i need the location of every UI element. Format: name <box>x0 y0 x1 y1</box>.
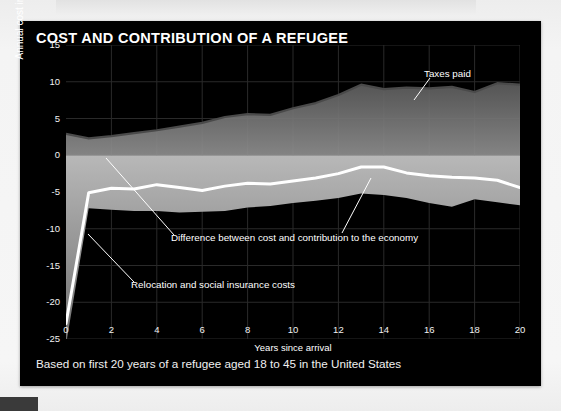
annotation-taxes-paid: Taxes paid <box>424 68 471 79</box>
x-tick-2: 2 <box>96 324 126 335</box>
page-bottom-tab <box>0 397 38 411</box>
figure-caption: Based on first 20 years of a refugee age… <box>36 357 401 370</box>
y-tick-neg20: -20 <box>26 296 60 307</box>
figure-card: COST AND CONTRIBUTION OF A REFUGEE Annua… <box>20 21 541 386</box>
x-axis-title: Years since arrival <box>66 342 520 353</box>
x-tick-12: 12 <box>323 324 353 335</box>
annotation-relocation: Relocation and social insurance costs <box>131 279 295 290</box>
x-tick-10: 10 <box>278 324 308 335</box>
x-tick-8: 8 <box>233 324 263 335</box>
annotation-difference: Difference between cost and contribution… <box>171 232 418 243</box>
y-tick-15: 15 <box>26 39 60 50</box>
x-tick-0: 0 <box>51 324 81 335</box>
y-tick-10: 10 <box>26 76 60 87</box>
y-tick-0: 0 <box>26 149 60 160</box>
x-tick-14: 14 <box>369 324 399 335</box>
y-tick-neg15: -15 <box>26 260 60 271</box>
x-tick-6: 6 <box>187 324 217 335</box>
page-title: COST AND CONTRIBUTION OF A REFUGEE <box>36 30 348 46</box>
chart-svg <box>66 45 520 339</box>
chart-plot-area <box>66 45 520 339</box>
y-axis-title: Annual cost in U.S. dollars (thousands) <box>14 0 25 83</box>
y-tick-5: 5 <box>26 113 60 124</box>
x-tick-4: 4 <box>142 324 172 335</box>
x-tick-16: 16 <box>414 324 444 335</box>
x-tick-18: 18 <box>460 324 490 335</box>
x-tick-20: 20 <box>505 324 535 335</box>
y-tick-neg10: -10 <box>26 223 60 234</box>
y-tick-neg5: -5 <box>26 186 60 197</box>
